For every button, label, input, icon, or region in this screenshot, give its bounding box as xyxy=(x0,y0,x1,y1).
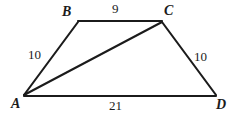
side-length-ab: 10 xyxy=(28,48,41,61)
vertex-label-c: C xyxy=(164,4,173,18)
vertex-label-d: D xyxy=(216,98,226,112)
segment-AC-diagonal xyxy=(24,22,162,95)
vertex-label-a: A xyxy=(11,97,20,111)
side-length-bc: 9 xyxy=(112,2,119,15)
geometry-figure: A B C D 10 9 10 21 xyxy=(0,0,235,116)
segment-CD xyxy=(162,22,216,95)
side-length-ad: 21 xyxy=(109,99,122,112)
vertex-label-b: B xyxy=(62,5,71,19)
side-length-cd: 10 xyxy=(194,50,207,63)
